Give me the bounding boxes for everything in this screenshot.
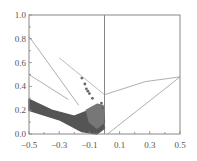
y-tick-label: 0.6 <box>15 58 27 68</box>
data-point <box>91 97 94 100</box>
x-axis-tick-labels: −0.5−0.3−0.10.10.30.5 <box>21 140 186 150</box>
y-tick-label: 1.0 <box>15 10 27 20</box>
data-point <box>86 90 89 93</box>
y-axis-tick-labels: 0.00.20.40.60.81.0 <box>15 10 27 139</box>
x-tick-label: 0.1 <box>114 140 125 150</box>
x-tick-label: −0.1 <box>81 140 97 150</box>
data-point <box>85 87 88 90</box>
data-point <box>102 106 105 109</box>
x-tick-label: −0.3 <box>51 140 68 150</box>
x-tick-label: 0.3 <box>144 140 156 150</box>
x-tick-label: −0.5 <box>21 140 38 150</box>
left-line-c <box>59 58 104 95</box>
y-tick-label: 0.8 <box>15 34 27 44</box>
y-tick-label: 0.0 <box>15 129 27 139</box>
y-tick-label: 0.4 <box>15 81 27 91</box>
left-line-a <box>29 36 79 105</box>
data-point <box>88 92 91 95</box>
x-tick-label: 0.5 <box>174 140 186 150</box>
left-line-b <box>29 75 68 100</box>
chart: −0.5−0.3−0.10.10.30.5 0.00.20.40.60.81.0 <box>0 0 197 161</box>
y-tick-label: 0.2 <box>15 105 26 115</box>
data-point <box>100 102 103 105</box>
right-diagonal-line <box>108 77 181 134</box>
data-point <box>83 83 86 86</box>
